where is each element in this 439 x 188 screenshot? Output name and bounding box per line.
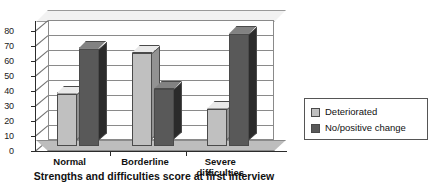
x-axis-category-label: Borderline [102,156,188,167]
axis-depth-connector [35,95,49,107]
category-label-line: Normal [27,156,113,167]
plot-area: 01020304050607080 NormalBorderlineSevere… [18,10,286,145]
category-label-line: Severe [177,156,263,167]
y-axis-tick-mark [31,136,35,137]
bar-side-face [99,42,107,139]
axis-depth-connector [35,50,49,62]
y-axis-tick-label: 80 [0,27,14,36]
y-axis-tick-label: 0 [0,147,14,156]
bar [132,53,152,146]
y-axis-line [35,21,36,151]
y-axis-tick-mark [31,91,35,92]
axis-depth-connector [35,65,49,77]
axis-depth-connector [35,80,49,92]
bar [57,94,77,147]
bar-front-face [154,89,174,146]
y-axis-tick-mark [31,46,35,47]
y-axis-back-edge [48,20,49,141]
bar [79,49,99,147]
axis-depth-connector [35,35,49,47]
y-axis-tick-label: 70 [0,42,14,51]
legend-item-label: No/positive change [325,123,406,133]
bar-front-face [229,34,249,147]
legend-swatch-icon [311,108,320,117]
chart-figure: 01020304050607080 NormalBorderlineSevere… [0,0,439,188]
y-axis-tick-mark [31,121,35,122]
axis-depth-connector [35,110,49,122]
legend-item-no-positive-change: No/positive change [311,120,427,136]
bar [154,89,174,146]
y-axis-tick-mark [31,31,35,32]
y-axis-tick-label: 60 [0,57,14,66]
bar [229,34,249,147]
legend-item-label: Deteriorated [325,107,377,117]
y-axis-tick-label: 50 [0,72,14,81]
legend-item-deteriorated: Deteriorated [311,104,427,120]
chart-legend: Deteriorated No/positive change [304,98,428,140]
y-axis-tick-label: 40 [0,87,14,96]
bar-front-face [57,94,77,147]
bar-side-face [174,82,182,139]
y-axis-tick-label: 20 [0,117,14,126]
y-axis-tick-label: 10 [0,132,14,141]
bar-front-face [207,109,227,147]
y-axis-tick-label: 30 [0,102,14,111]
bar-side-face [249,27,257,139]
x-axis-category-label: Normal [27,156,113,167]
y-axis-tick-mark [31,76,35,77]
y-axis-tick-mark [31,106,35,107]
x-axis-title: Strengths and difficulties score at firs… [8,170,300,182]
bar-front-face [79,49,99,147]
bar [207,109,227,147]
y-axis-tick-mark [31,151,35,152]
category-label-line: Borderline [102,156,188,167]
bar-front-face [132,53,152,146]
legend-swatch-icon [311,124,320,133]
axis-depth-connector [35,125,49,137]
x-axis-line [35,151,287,152]
gridline [48,20,274,21]
y-axis-tick-mark [31,61,35,62]
